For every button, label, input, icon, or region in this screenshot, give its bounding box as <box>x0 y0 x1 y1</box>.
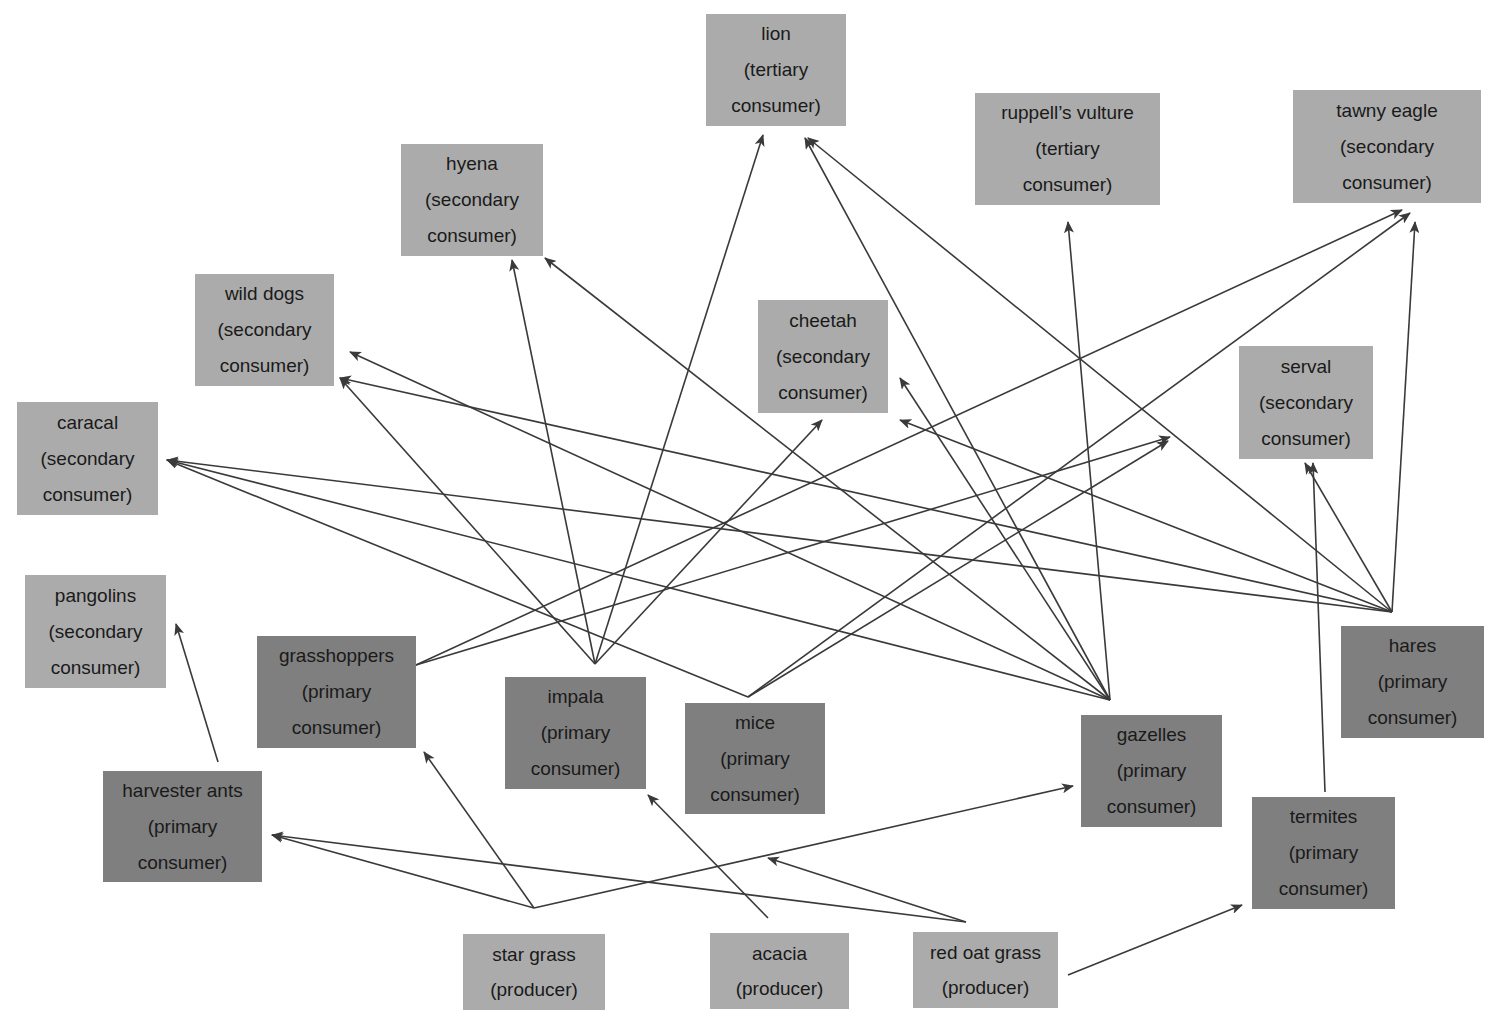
arrow-mice-to-serval <box>748 441 1168 697</box>
organism-name: wild dogs <box>225 276 304 312</box>
trophic-level-label-cont: consumer) <box>778 375 868 411</box>
node-serval: serval (secondary consumer) <box>1239 346 1373 459</box>
node-grasshoppers: grasshoppers (primary consumer) <box>257 636 416 748</box>
trophic-level-label-cont: consumer) <box>138 845 228 881</box>
arrow-red-oat-grass-to-harvester-ants <box>272 835 966 922</box>
trophic-level-label: (tertiary <box>744 52 808 88</box>
organism-name: hares <box>1389 628 1437 664</box>
node-pangolins: pangolins (secondary consumer) <box>25 575 166 688</box>
trophic-level-label: (secondary <box>49 614 143 650</box>
node-wild-dogs: wild dogs (secondary consumer) <box>195 274 334 386</box>
trophic-level-label: (secondary <box>776 339 870 375</box>
organism-name: mice <box>735 705 775 741</box>
organism-name: acacia <box>752 936 807 971</box>
trophic-level-label: (primary <box>148 809 218 845</box>
node-hares: hares (primary consumer) <box>1341 626 1484 738</box>
organism-name: pangolins <box>55 578 136 614</box>
trophic-level-label: (producer) <box>490 972 578 1007</box>
node-tawny-eagle: tawny eagle (secondary consumer) <box>1293 90 1481 203</box>
organism-name: termites <box>1290 799 1358 835</box>
arrow-star-grass-to-harvester-ants <box>272 835 534 908</box>
node-gazelles: gazelles (primary consumer) <box>1081 715 1222 827</box>
node-harvester-ants: harvester ants (primary consumer) <box>103 771 262 882</box>
arrow-red-oat-grass-to-mice <box>768 858 966 922</box>
organism-name: cheetah <box>789 303 857 339</box>
arrow-red-oat-grass-to-termites <box>1068 905 1242 975</box>
organism-name: caracal <box>57 405 118 441</box>
node-red-oat-grass: red oat grass (producer) <box>913 932 1058 1008</box>
trophic-level-label-cont: consumer) <box>43 477 133 513</box>
trophic-level-label: (primary <box>1289 835 1359 871</box>
node-caracal: caracal (secondary consumer) <box>17 402 158 515</box>
organism-name: red oat grass <box>930 935 1041 970</box>
trophic-level-label-cont: consumer) <box>1023 167 1113 203</box>
arrow-hares-to-wild-dogs <box>340 378 1392 612</box>
organism-name: grasshoppers <box>279 638 394 674</box>
node-lion: lion (tertiary consumer) <box>706 14 846 126</box>
trophic-level-label: (primary <box>541 715 611 751</box>
trophic-level-label: (secondary <box>1340 129 1434 165</box>
trophic-level-label: (primary <box>720 741 790 777</box>
node-ruppells-vulture: ruppell’s vulture (tertiary consumer) <box>975 93 1160 205</box>
trophic-level-label-cont: consumer) <box>427 218 517 254</box>
trophic-level-label-cont: consumer) <box>1261 421 1351 457</box>
organism-name: ruppell’s vulture <box>1001 95 1134 131</box>
organism-name: lion <box>761 16 791 52</box>
arrow-hares-to-tawny-eagle <box>1392 222 1415 612</box>
organism-name: harvester ants <box>122 773 242 809</box>
trophic-level-label: (secondary <box>218 312 312 348</box>
trophic-level-label-cont: consumer) <box>220 348 310 384</box>
arrow-impala-to-wild-dogs <box>340 378 595 664</box>
trophic-level-label: (primary <box>302 674 372 710</box>
trophic-level-label-cont: consumer) <box>1107 789 1197 825</box>
trophic-level-label: (tertiary <box>1035 131 1099 167</box>
arrow-hares-to-caracal <box>167 460 1392 612</box>
trophic-level-label: (primary <box>1117 753 1187 789</box>
trophic-level-label-cont: consumer) <box>1279 871 1369 907</box>
node-hyena: hyena (secondary consumer) <box>401 144 543 256</box>
trophic-level-label-cont: consumer) <box>731 88 821 124</box>
node-termites: termites (primary consumer) <box>1252 797 1395 909</box>
node-mice: mice (primary consumer) <box>685 703 825 814</box>
trophic-level-label-cont: consumer) <box>292 710 382 746</box>
organism-name: impala <box>548 679 604 715</box>
organism-name: star grass <box>492 937 575 972</box>
arrow-harvester-ants-to-pangolins <box>176 624 218 762</box>
node-impala: impala (primary consumer) <box>505 677 646 789</box>
trophic-level-label: (producer) <box>942 970 1030 1005</box>
arrow-impala-to-hyena <box>512 260 595 664</box>
arrow-impala-to-cheetah <box>595 420 822 664</box>
trophic-level-label: (secondary <box>1259 385 1353 421</box>
node-star-grass: star grass (producer) <box>463 934 605 1010</box>
trophic-level-label-cont: consumer) <box>1342 165 1432 201</box>
organism-name: hyena <box>446 146 498 182</box>
arrow-termites-to-serval <box>1313 463 1325 792</box>
trophic-level-label-cont: consumer) <box>1368 700 1458 736</box>
trophic-level-label-cont: consumer) <box>51 650 141 686</box>
trophic-level-label: (primary <box>1378 664 1448 700</box>
node-acacia: acacia (producer) <box>710 933 849 1009</box>
organism-name: gazelles <box>1117 717 1187 753</box>
node-cheetah: cheetah (secondary consumer) <box>758 300 888 413</box>
arrow-gazelles-to-lion <box>805 138 1110 700</box>
organism-name: tawny eagle <box>1336 93 1437 129</box>
trophic-level-label-cont: consumer) <box>531 751 621 787</box>
organism-name: serval <box>1281 349 1332 385</box>
arrow-gazelles-to-ruppells-vulture <box>1068 222 1110 700</box>
trophic-level-label: (producer) <box>736 971 824 1006</box>
trophic-level-label: (secondary <box>425 182 519 218</box>
trophic-level-label: (secondary <box>41 441 135 477</box>
trophic-level-label-cont: consumer) <box>710 777 800 813</box>
